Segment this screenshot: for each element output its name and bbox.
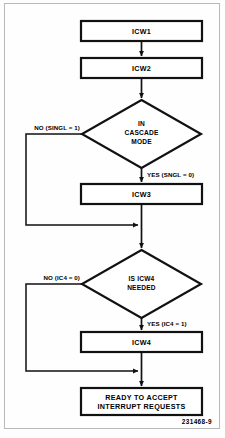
edge-label-yes-sngl: YES (SNGL = 0)	[147, 171, 194, 178]
flowchart-canvas: ICW1 ICW2 IN CASCADE MODE NO (SINGL = 1)…	[0, 0, 225, 438]
edge-label-no-singl: NO (SINGL = 1)	[34, 124, 80, 131]
node-icw3-label: ICW3	[132, 190, 151, 199]
edge-label-yes-ic4: YES (IC4 = 1)	[147, 320, 187, 327]
figure-code-label: 231468-9	[182, 418, 212, 425]
node-ready-label-line1: READY TO ACCEPT	[105, 393, 178, 402]
node-icw1-label: ICW1	[132, 27, 151, 36]
node-cascade-decision-label-line2: CASCADE	[124, 129, 158, 136]
edge-label-no-ic4: NO (IC4 = 0)	[44, 274, 80, 281]
node-ready-label-line2: INTERRUPT REQUESTS	[97, 402, 185, 411]
node-icw4-decision-label-line2: NEEDED	[127, 284, 156, 291]
node-icw4-decision-label-line1: IS ICW4	[129, 275, 155, 282]
node-icw4-label: ICW4	[132, 338, 151, 347]
flowchart-figure: ICW1 ICW2 IN CASCADE MODE NO (SINGL = 1)…	[0, 0, 225, 438]
node-cascade-decision-label-line3: MODE	[131, 138, 152, 145]
node-icw2-label: ICW2	[132, 64, 151, 73]
node-cascade-decision-label-line1: IN	[138, 120, 145, 127]
